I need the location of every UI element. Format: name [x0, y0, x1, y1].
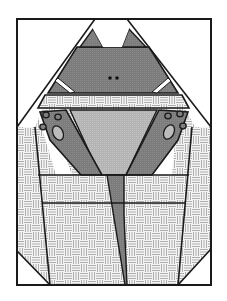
left-eye	[108, 76, 112, 80]
basket-rim	[38, 95, 189, 108]
quilt-block-illustration	[0, 0, 227, 301]
right-eye	[115, 76, 119, 80]
